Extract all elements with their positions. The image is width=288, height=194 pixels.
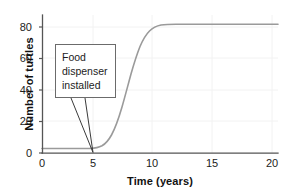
- turtle-population-chart: 80 60 40 20 0 0 5 10 15 20 Time (years) …: [0, 0, 288, 194]
- x-tick-label-20: 20: [259, 158, 285, 169]
- food-dispenser-callout: Food dispenser installed: [55, 44, 116, 98]
- x-tick-label-0: 0: [29, 158, 55, 169]
- x-axis-title: Time (years): [42, 175, 278, 187]
- callout-label: Food dispenser installed: [62, 50, 108, 92]
- x-tick-label-10: 10: [139, 158, 165, 169]
- callout-pointer: [71, 98, 93, 153]
- y-axis-title: Number of turtles: [23, 9, 35, 159]
- x-tick-label-5: 5: [80, 158, 106, 169]
- x-tick-label-15: 15: [199, 158, 225, 169]
